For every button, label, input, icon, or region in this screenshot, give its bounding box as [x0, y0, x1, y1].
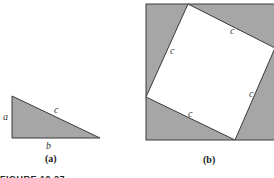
panel-b: c c c c (b) — [146, 4, 274, 166]
panel-a-caption: (a) — [45, 153, 57, 165]
inner-side-label-top: c — [230, 25, 235, 36]
panel-b-caption: (b) — [203, 154, 215, 166]
right-triangle — [12, 96, 100, 138]
figure-caption: FIGURE 10.27 — [0, 174, 65, 178]
inner-side-label-right: c — [249, 88, 254, 99]
inner-side-label-bottom: c — [188, 108, 193, 119]
side-label-c: c — [54, 104, 59, 115]
figure-canvas: a c b (a) c c c c (b) FIGURE 10.27 — [0, 0, 274, 178]
side-label-b: b — [46, 140, 51, 151]
inner-side-label-left: c — [170, 45, 175, 56]
panel-a: a c b (a) — [3, 96, 100, 165]
side-label-a: a — [3, 111, 8, 122]
